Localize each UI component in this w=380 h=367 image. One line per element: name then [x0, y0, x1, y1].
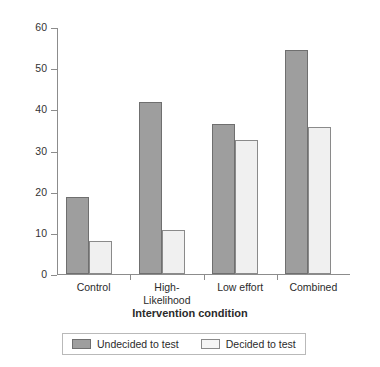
y-axis-tick-label: 60: [35, 21, 47, 33]
bar: [212, 124, 235, 274]
y-axis-tick: 50: [51, 69, 57, 70]
y-axis-tick-label: 30: [35, 145, 47, 157]
y-axis-tick-label: 40: [35, 103, 47, 115]
x-axis-group-label: Combined: [277, 281, 350, 294]
x-axis-tick: [204, 275, 205, 280]
legend-swatch: [72, 339, 91, 349]
x-axis-group-label: Control: [57, 281, 130, 294]
bar-chart-figure: Percentage 0102030405060 ControlHigh- Li…: [0, 0, 380, 367]
bar: [139, 102, 162, 274]
legend-entry: Decided to test: [201, 338, 296, 350]
bar: [308, 127, 331, 274]
y-axis-line: [57, 28, 58, 275]
y-axis-tick-label: 10: [35, 227, 47, 239]
y-axis-tick-label: 50: [35, 62, 47, 74]
legend-label: Undecided to test: [97, 338, 179, 350]
y-axis-tick: 60: [51, 28, 57, 29]
chart-legend: Undecided to testDecided to test: [62, 333, 306, 355]
y-axis-tick: 20: [51, 193, 57, 194]
y-axis-tick: 0: [51, 275, 57, 276]
bar: [89, 241, 112, 274]
x-axis-group-label: High- Likelihood: [130, 281, 203, 307]
bar: [66, 197, 89, 274]
y-axis-tick: 30: [51, 152, 57, 153]
x-axis-tick: [277, 275, 278, 280]
legend-label: Decided to test: [226, 338, 296, 350]
y-axis-tick-label: 20: [35, 186, 47, 198]
x-axis-group-label: Low effort: [204, 281, 277, 294]
bar: [285, 50, 308, 274]
plot-area: 0102030405060: [57, 28, 350, 275]
bar: [235, 140, 258, 274]
bar: [162, 230, 185, 274]
y-axis-tick-label: 0: [41, 268, 47, 280]
x-axis-title: Intervention condition: [0, 307, 380, 319]
y-axis-tick: 10: [51, 234, 57, 235]
legend-entry: Undecided to test: [72, 338, 179, 350]
x-axis-tick: [130, 275, 131, 280]
legend-swatch: [201, 339, 220, 349]
y-axis-tick: 40: [51, 110, 57, 111]
